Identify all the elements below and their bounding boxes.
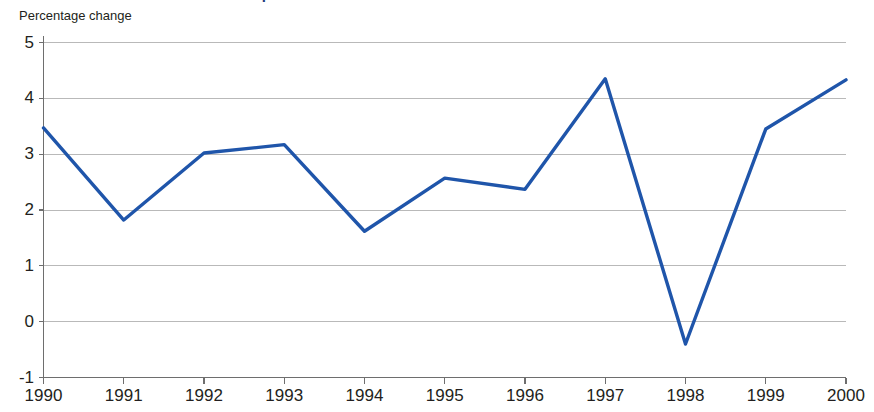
y-tick-label: 3 — [4, 145, 34, 162]
y-tick-label: 2 — [4, 201, 34, 218]
x-tick-label: 1995 — [426, 387, 464, 404]
chart-figure: Chart 1: Growth in household disposable … — [0, 0, 874, 412]
tickmarks-group — [39, 43, 44, 378]
line-chart-svg — [0, 0, 874, 412]
x-tick-label: 1998 — [667, 387, 705, 404]
y-tick-label: 0 — [4, 313, 34, 330]
x-tick-label: 1994 — [346, 387, 384, 404]
x-tick-label: 1993 — [265, 387, 303, 404]
x-tick-label: 2000 — [827, 387, 865, 404]
x-tick-label: 1990 — [25, 387, 63, 404]
x-tick-label: 1999 — [747, 387, 785, 404]
x-tick-label: 1997 — [586, 387, 624, 404]
x-tick-label: 1991 — [105, 387, 143, 404]
plot-area — [0, 0, 874, 412]
y-tick-label: 4 — [4, 89, 34, 106]
x-tickmarks-group — [44, 378, 847, 384]
x-tick-label: 1992 — [185, 387, 223, 404]
gridlines-group — [44, 43, 847, 378]
series-line-household-income — [44, 79, 847, 344]
y-tick-label: 5 — [4, 34, 34, 51]
y-tick-label: 1 — [4, 257, 34, 274]
y-tick-label: -1 — [4, 369, 34, 386]
x-tick-label: 1996 — [506, 387, 544, 404]
